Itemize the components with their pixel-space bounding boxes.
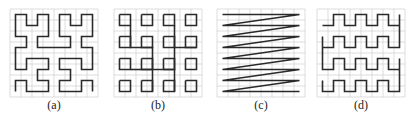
hilbert-curve-diagram xyxy=(9,8,99,98)
zigzag-curve-diagram xyxy=(216,8,306,98)
panel-label-d: (d) xyxy=(316,98,406,113)
panel-label-a: (a) xyxy=(9,98,99,113)
panel-c xyxy=(216,8,306,98)
panel-d xyxy=(316,8,406,98)
serpentine-curve-diagram xyxy=(316,8,406,98)
panel-label-b: (b) xyxy=(113,98,203,113)
panel-b xyxy=(113,8,203,98)
panel-label-c: (c) xyxy=(216,98,306,113)
panel-a xyxy=(9,8,99,98)
squares-curve-diagram xyxy=(113,8,203,98)
